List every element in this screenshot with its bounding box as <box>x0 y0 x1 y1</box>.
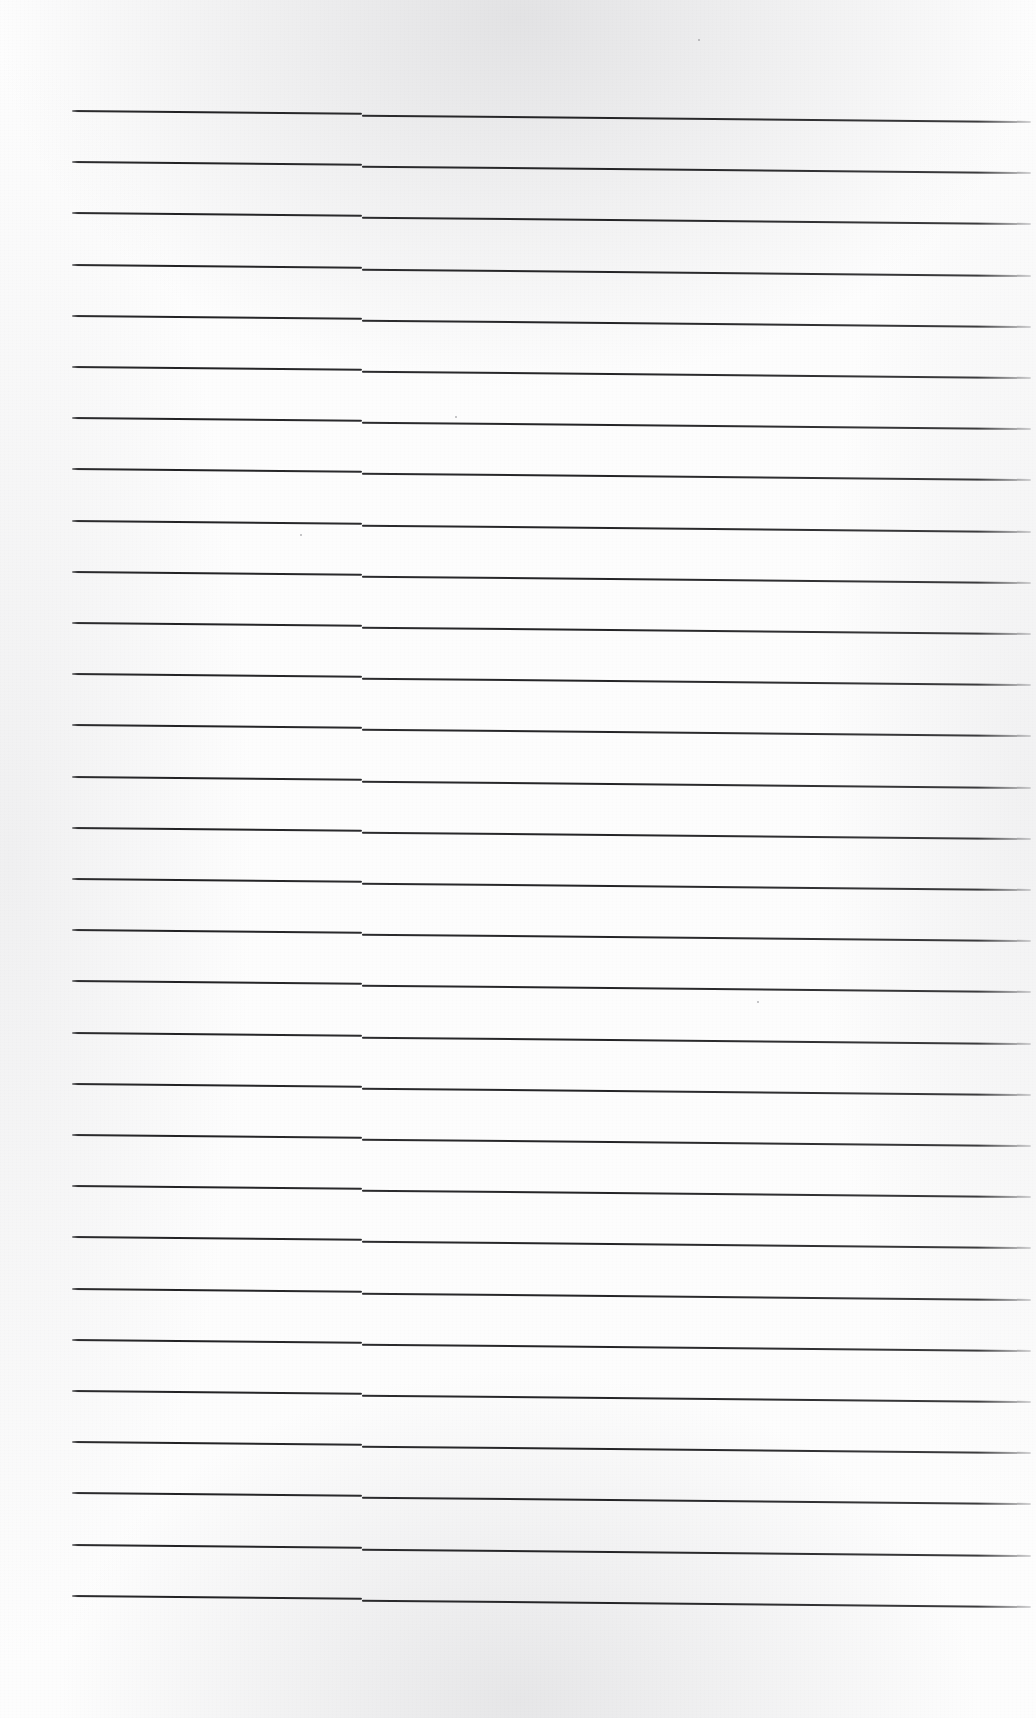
ruled-line <box>0 673 1036 683</box>
ruled-line <box>0 468 1036 478</box>
ruled-line-segment-left <box>72 980 362 985</box>
ruled-line-segment-left <box>72 673 362 678</box>
ruled-line <box>0 775 1036 785</box>
scan-speck <box>300 534 302 536</box>
ruled-line-segment-left <box>72 1083 362 1088</box>
ruled-line <box>0 263 1036 273</box>
ruled-line <box>0 519 1036 529</box>
ruled-line-segment-right <box>362 1344 1031 1352</box>
ruled-line-segment-right <box>362 422 1031 430</box>
ruled-line-segment-left <box>72 1032 362 1037</box>
ruled-line-segment-right <box>362 729 1031 737</box>
ruled-line-segment-left <box>72 878 362 883</box>
scan-speck <box>757 1001 759 1003</box>
ruled-line-segment-left <box>72 571 362 576</box>
ruled-line-segment-right <box>362 1446 1031 1454</box>
ruled-line-segment-right <box>362 627 1031 635</box>
ruled-line <box>0 212 1036 222</box>
ruled-line <box>0 1389 1036 1399</box>
ruled-line <box>0 1133 1036 1143</box>
scan-noise-overlay <box>0 0 1036 1718</box>
ruled-line-segment-left <box>72 929 362 934</box>
document-title: Blank ruled notebook page (scan) <box>0 0 1 1</box>
ruled-line-segment-left <box>72 776 362 781</box>
ruled-line-segment-right <box>362 576 1031 584</box>
ruled-line-segment-left <box>72 417 362 422</box>
ruled-line-segment-right <box>362 320 1031 328</box>
ruled-line-segment-right <box>362 1548 1031 1556</box>
ruled-line <box>0 1492 1036 1502</box>
ruled-line <box>0 1082 1036 1092</box>
ruled-line-segment-left <box>72 622 362 627</box>
scan-shading-overlay <box>0 0 1036 1718</box>
ruled-line-segment-right <box>362 1292 1031 1300</box>
scan-speck <box>455 416 457 418</box>
ruled-line-segment-left <box>72 161 362 166</box>
ruled-line <box>0 1236 1036 1246</box>
ruled-line-segment-left <box>72 1185 362 1190</box>
ruled-line <box>0 1287 1036 1297</box>
ruled-line <box>0 314 1036 324</box>
ruled-line <box>0 724 1036 734</box>
ruled-line <box>0 1031 1036 1041</box>
ruled-line <box>0 365 1036 375</box>
ruled-line-segment-left <box>72 1595 362 1600</box>
ruled-line-segment-right <box>362 473 1031 481</box>
ruled-line-segment-left <box>72 1134 362 1139</box>
ruled-line-segment-right <box>362 678 1031 686</box>
ruled-line-segment-left <box>72 1492 362 1497</box>
ruled-line-segment-left <box>72 366 362 371</box>
ruled-line-segment-right <box>362 832 1031 840</box>
ruled-line-segment-left <box>72 1544 362 1549</box>
ruled-line <box>0 826 1036 836</box>
ruled-line <box>0 1594 1036 1604</box>
ruled-line <box>0 1441 1036 1451</box>
ruled-line-segment-right <box>362 985 1031 993</box>
ruled-line-segment-right <box>362 1036 1031 1044</box>
ruled-line-segment-left <box>72 315 362 320</box>
ruled-line-segment-right <box>362 1600 1031 1608</box>
ruled-line-segment-left <box>72 212 362 217</box>
ruled-line <box>0 980 1036 990</box>
ruled-line-segment-left <box>72 1441 362 1446</box>
ruled-line-segment-left <box>72 468 362 473</box>
ruled-line-segment-left <box>72 264 362 269</box>
ruled-line-segment-left <box>72 1236 362 1241</box>
ruled-line-segment-left <box>72 1390 362 1395</box>
ruled-line <box>0 1543 1036 1553</box>
ruled-line-segment-right <box>362 1497 1031 1505</box>
scanned-page: Blank ruled notebook page (scan) <box>0 0 1036 1718</box>
ruled-line-segment-right <box>362 115 1031 123</box>
ruled-line-segment-left <box>72 724 362 729</box>
ruled-line <box>0 1185 1036 1195</box>
ruled-line-segment-right <box>362 780 1031 788</box>
ruled-line-segment-right <box>362 166 1031 174</box>
ruled-line <box>0 621 1036 631</box>
ruled-line-segment-left <box>72 1288 362 1293</box>
ruled-line <box>0 161 1036 171</box>
ruled-line-segment-right <box>362 1139 1031 1147</box>
ruled-line-segment-left <box>72 1339 362 1344</box>
ruled-line-segment-left <box>72 827 362 832</box>
ruled-line <box>0 929 1036 939</box>
ruled-line-segment-left <box>72 110 362 115</box>
ruled-line-segment-right <box>362 217 1031 225</box>
ruled-line <box>0 570 1036 580</box>
ruled-line-segment-right <box>362 1241 1031 1249</box>
ruled-line-segment-right <box>362 371 1031 379</box>
ruled-line <box>0 417 1036 427</box>
ruled-line <box>0 877 1036 887</box>
ruled-line-segment-right <box>362 1088 1031 1096</box>
ruled-line-segment-right <box>362 268 1031 276</box>
ruled-line-segment-right <box>362 1395 1031 1403</box>
ruled-line-segment-left <box>72 520 362 525</box>
ruled-line-segment-right <box>362 883 1031 891</box>
ruled-line-segment-right <box>362 934 1031 942</box>
ruled-line <box>0 109 1036 119</box>
scan-speck <box>698 39 700 41</box>
ruled-line-segment-right <box>362 1190 1031 1198</box>
ruled-line-segment-right <box>362 524 1031 532</box>
ruled-line <box>0 1338 1036 1348</box>
